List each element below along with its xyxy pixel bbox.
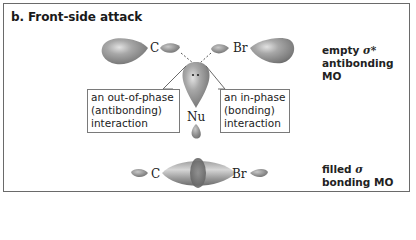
callout-out-of-phase-line1: an out-of-phase <box>91 91 176 104</box>
callout-in-phase-line3: interaction <box>224 117 286 130</box>
sigma-star-symbol: σ* <box>363 44 376 56</box>
c-small-lobe <box>160 43 180 52</box>
br-small-lobe <box>211 44 229 53</box>
callout-out-of-phase: an out-of-phase (antibonding) interactio… <box>87 89 180 133</box>
nu-small-lobe <box>192 124 201 139</box>
callout-pointer-left <box>163 66 186 89</box>
overlap-line-right <box>200 53 211 63</box>
atom-nu: Nu <box>187 110 206 124</box>
label-antibonding-line2: antibonding MO <box>322 57 416 83</box>
atom-c-bottom: C <box>151 167 160 181</box>
label-bonding-prefix: filled <box>322 163 355 175</box>
callout-out-of-phase-line3: interaction <box>91 117 176 130</box>
callout-in-phase: an in-phase (bonding) interaction <box>220 89 290 133</box>
callout-in-phase-line1: an in-phase <box>224 91 286 104</box>
lone-pair-dot <box>197 74 199 76</box>
label-antibonding-prefix: empty <box>322 44 363 56</box>
atom-br-top: Br <box>233 41 248 55</box>
nu-large-lobe <box>183 62 210 108</box>
callout-out-of-phase-line2: (antibonding) <box>91 104 176 117</box>
lone-pair-dot <box>192 74 194 76</box>
label-bonding-mo: filled σ bonding MO <box>322 163 393 189</box>
atom-c-top: C <box>150 41 159 55</box>
c-large-lobe <box>102 38 148 64</box>
label-antibonding-mo: empty σ* antibonding MO <box>322 44 416 83</box>
label-bonding-line2: bonding MO <box>322 176 393 189</box>
sigma-symbol: σ <box>355 163 363 175</box>
c-back-lobe-bottom <box>131 169 148 177</box>
br-back-lobe-bottom <box>250 169 268 177</box>
br-large-lobe <box>250 38 294 63</box>
callout-in-phase-line2: (bonding) <box>224 104 286 117</box>
sigma-bond-orbital <box>162 158 236 188</box>
overlap-line-left <box>181 53 193 63</box>
atom-br-bottom: Br <box>232 167 247 181</box>
